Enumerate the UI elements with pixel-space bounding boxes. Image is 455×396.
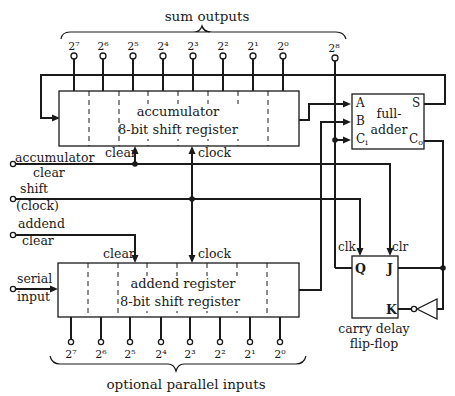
addend-clear-pin-label: clear bbox=[103, 246, 135, 261]
addend-to-b-wire bbox=[299, 122, 343, 290]
accumulator-clear-input-pin[interactable] bbox=[10, 161, 15, 166]
accumulator-clear-pin-label: clear bbox=[105, 145, 137, 160]
sum-output-label: 2⁷ bbox=[68, 40, 80, 53]
sum-output-pins bbox=[71, 53, 286, 91]
accumulator-title: accumulator bbox=[137, 104, 220, 119]
flip-flop-pin-q: Q bbox=[355, 261, 366, 276]
accumulator-subtitle: 8-bit shift register bbox=[118, 122, 239, 137]
full-adder-pin-s: S bbox=[412, 96, 420, 110]
accumulator-register: accumulator 8-bit shift register bbox=[59, 91, 299, 146]
clk-arrow-icon bbox=[357, 248, 364, 256]
accumulator-clock-label: clock bbox=[198, 145, 232, 160]
parallel-input-label: 2⁰ bbox=[274, 348, 286, 361]
addend-clear-line: addend clear clear bbox=[10, 216, 138, 263]
sum-output-label: 2² bbox=[217, 40, 228, 53]
sum-outputs-bracket: sum outputs bbox=[61, 8, 346, 39]
sum-outputs-label: sum outputs bbox=[165, 8, 250, 24]
shift-input-pin[interactable] bbox=[10, 196, 15, 201]
parallel-input-label: 2⁶ bbox=[95, 348, 107, 361]
parallel-input-label: 2² bbox=[214, 348, 225, 361]
parallel-input-labels: 2⁷ 2⁶ 2⁵ 2⁴ 2³ 2² 2¹ 2⁰ bbox=[65, 348, 286, 361]
flip-flop-clk-label: clk bbox=[338, 240, 357, 254]
shift-label-1: shift bbox=[20, 181, 48, 196]
parallel-input-label: 2³ bbox=[184, 348, 195, 361]
parallel-input-label: 2⁴ bbox=[155, 348, 167, 361]
flip-flop-pin-j: J bbox=[386, 261, 393, 276]
addend-register: addend register 8-bit shift register bbox=[58, 263, 299, 317]
parallel-input-pins bbox=[68, 317, 282, 345]
full-adder-title-2: adder bbox=[371, 122, 408, 137]
serial-input-line: serial input bbox=[10, 271, 58, 304]
serial-input-label-2: input bbox=[17, 289, 50, 304]
parallel-inputs-label: optional parallel inputs bbox=[106, 376, 265, 392]
addend-title: addend register bbox=[130, 276, 236, 291]
parallel-inputs-bracket: optional parallel inputs bbox=[50, 356, 306, 392]
sum-output-label: 2⁴ bbox=[157, 40, 169, 53]
accumulator-clear-label-1: accumulator bbox=[15, 150, 94, 165]
carry-output-pin bbox=[332, 55, 338, 61]
flip-flop-title-1: carry delay bbox=[338, 321, 410, 336]
sum-output-label: 2⁶ bbox=[97, 40, 109, 53]
carry-delay-flip-flop: Q J K carry delay flip-flop clk clr bbox=[338, 240, 411, 351]
flip-flop-pin-k: K bbox=[386, 302, 398, 317]
carry-output-label: 2⁸ bbox=[328, 42, 340, 55]
full-adder-title-1: full- bbox=[377, 106, 402, 121]
addend-clock-arrow-icon bbox=[189, 255, 196, 263]
parallel-input-label: 2⁵ bbox=[124, 348, 135, 361]
full-adder-pin-a: A bbox=[355, 96, 365, 110]
full-adder-pin-b: B bbox=[356, 114, 365, 128]
serial-input-label-1: serial bbox=[17, 271, 52, 286]
co-to-inverter-wire bbox=[437, 268, 443, 309]
addend-subtitle: 8-bit shift register bbox=[120, 294, 241, 309]
accumulator-clear-line: accumulator clear clear bbox=[10, 145, 393, 256]
parallel-input-label: 2¹ bbox=[244, 348, 255, 361]
flip-flop-clr-label: clr bbox=[392, 240, 409, 254]
a-input-arrow-icon bbox=[343, 101, 351, 108]
inverter-gate bbox=[398, 299, 437, 319]
sum-output-label: 2⁵ bbox=[127, 40, 138, 53]
addend-clear-input-pin[interactable] bbox=[10, 232, 15, 237]
serial-adder-diagram: sum outputs 2⁷ 2⁶ 2⁵ 2⁴ 2³ 2² 2¹ 2⁰ 2⁸ bbox=[0, 0, 455, 396]
accumulator-clear-label-2: clear bbox=[33, 165, 65, 180]
serial-input-pin[interactable] bbox=[10, 286, 15, 291]
shift-label-2: (clock) bbox=[16, 198, 59, 213]
full-adder: A B Ci S Co full- adder bbox=[352, 94, 424, 149]
sum-output-label: 2¹ bbox=[247, 40, 258, 53]
ci-input-arrow-icon bbox=[343, 137, 351, 144]
sum-output-label: 2³ bbox=[187, 40, 198, 53]
parallel-input-label: 2⁷ bbox=[65, 348, 77, 361]
sum-output-labels: 2⁷ 2⁶ 2⁵ 2⁴ 2³ 2² 2¹ 2⁰ 2⁸ bbox=[68, 40, 340, 55]
addend-clock-label: clock bbox=[198, 246, 232, 261]
addend-clear-label-1: addend bbox=[18, 216, 65, 231]
serial-input-arrow-icon bbox=[50, 286, 58, 293]
b-input-arrow-icon bbox=[343, 119, 351, 126]
acc-clock-arrow-icon bbox=[189, 146, 196, 154]
accumulator-to-a-wire bbox=[299, 104, 343, 120]
flip-flop-title-2: flip-flop bbox=[350, 336, 398, 351]
sum-output-label: 2⁰ bbox=[277, 40, 289, 53]
